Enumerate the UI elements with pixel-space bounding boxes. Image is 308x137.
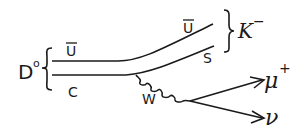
u-bar-label-right: U	[183, 20, 193, 36]
feynman-diagram: D o U C U S K − W μ + ν	[0, 0, 308, 137]
u-bar-label-left: U	[66, 43, 76, 59]
neutrino-line	[190, 101, 262, 118]
d-meson-superscript: o	[33, 57, 40, 70]
k-meson-label: K	[237, 19, 254, 43]
d-meson-label: D	[18, 60, 33, 84]
s-quark-label: S	[203, 50, 212, 66]
c-quark-label: C	[68, 84, 78, 100]
muon-line	[190, 80, 262, 101]
k-meson-superscript: −	[253, 13, 265, 29]
w-boson-label: W	[142, 91, 156, 107]
neutrino-label: ν	[265, 105, 278, 130]
muon-label: μ	[264, 68, 278, 93]
muon-superscript: +	[279, 60, 291, 76]
k-meson-brace	[224, 10, 234, 52]
d-meson-brace	[42, 48, 52, 90]
